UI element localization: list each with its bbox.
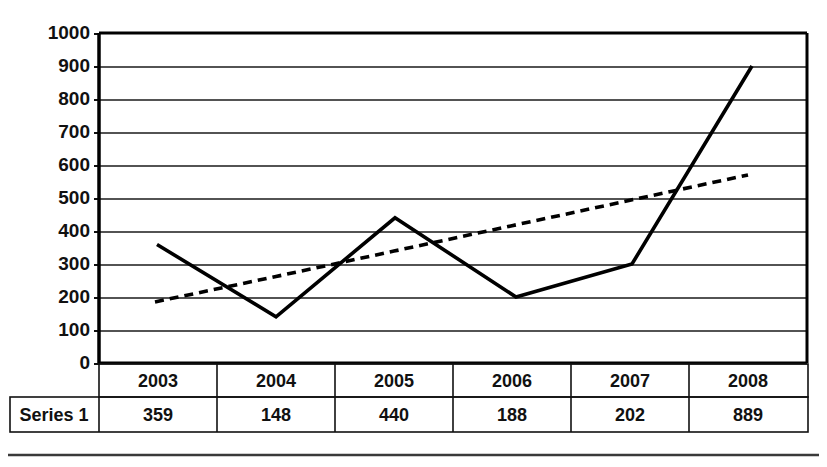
category-header-2006: 2006 (492, 371, 532, 391)
data-value-2005: 440 (379, 405, 409, 425)
y-tick-label-400: 400 (58, 220, 90, 241)
data-value-2004: 148 (261, 405, 291, 425)
y-tick-label-300: 300 (58, 253, 90, 274)
series-row-label: Series 1 (19, 405, 88, 425)
y-tick-label-900: 900 (58, 55, 90, 76)
category-header-2008: 2008 (728, 371, 768, 391)
category-header-2007: 2007 (610, 371, 650, 391)
y-tick-label-1000: 1000 (48, 22, 90, 43)
y-tick-label-100: 100 (58, 319, 90, 340)
category-header-2004: 2004 (256, 371, 296, 391)
category-header-2005: 2005 (374, 371, 414, 391)
line-chart-figure: 1000 900 800 700 600 500 400 300 200 100… (0, 0, 827, 467)
y-tick-label-800: 800 (58, 88, 90, 109)
y-tick-label-600: 600 (58, 154, 90, 175)
category-header-2003: 2003 (138, 371, 178, 391)
data-value-2008: 889 (733, 405, 763, 425)
data-value-2003: 359 (143, 405, 173, 425)
y-tick-label-700: 700 (58, 121, 90, 142)
y-tick-label-500: 500 (58, 187, 90, 208)
y-tick-label-0: 0 (79, 352, 90, 373)
data-value-2006: 188 (497, 405, 527, 425)
y-tick-label-200: 200 (58, 286, 90, 307)
data-value-2007: 202 (615, 405, 645, 425)
